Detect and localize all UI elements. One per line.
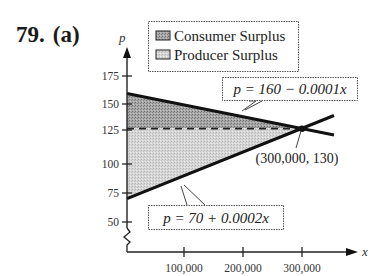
supply-equation-callout: p = 70 + 0.0002x — [149, 185, 284, 230]
x-axis-label: x — [361, 244, 368, 259]
legend-label: Consumer Surplus — [174, 28, 285, 44]
y-tick-label: 50 — [108, 216, 120, 228]
y-axis-label: p — [118, 30, 126, 45]
legend: Consumer Surplus Producer Surplus — [149, 22, 299, 72]
x-axis: x — [127, 244, 368, 259]
demand-equation-label: p = 160 − 0.0001x — [232, 81, 346, 97]
legend-label: Producer Surplus — [174, 47, 278, 63]
equilibrium-point — [299, 126, 305, 132]
legend-item-producer-surplus: Producer Surplus — [156, 47, 278, 63]
y-tick-label: 175 — [102, 70, 120, 82]
x-tick-label: 300,000 — [283, 262, 321, 275]
equilibrium-point-label: (300,000, 130) — [256, 151, 339, 167]
supply-equation-label: p = 70 + 0.0002x — [162, 210, 269, 226]
consumer-surplus-swatch-icon — [156, 31, 170, 40]
x-tick-label: 200,000 — [224, 262, 262, 275]
y-tick-label: 125 — [102, 124, 120, 136]
producer-surplus-swatch-icon — [156, 50, 170, 59]
y-tick-label: 75 — [108, 187, 120, 199]
x-tick-label: 100,000 — [165, 262, 203, 275]
y-tick-label: 100 — [102, 158, 120, 170]
demand-equation-callout: p = 160 − 0.0001x — [223, 78, 358, 112]
x-axis-arrow-icon — [346, 248, 358, 256]
axis-break-icon — [124, 228, 130, 252]
y-axis-arrow-icon — [123, 47, 131, 58]
y-tick-label: 150 — [102, 98, 120, 110]
legend-item-consumer-surplus: Consumer Surplus — [156, 28, 285, 44]
surplus-chart: p 175 150 125 100 75 50 x 100,000 200,00… — [0, 0, 385, 276]
